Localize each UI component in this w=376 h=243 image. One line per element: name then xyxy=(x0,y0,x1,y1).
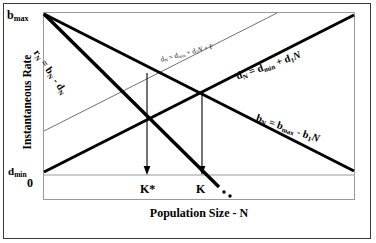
rn-growth-rate-line xyxy=(44,14,219,187)
k-marker-label: K xyxy=(196,182,205,197)
y-axis-title: Instantaneous Rate xyxy=(21,27,33,177)
y-tick-bmax-base: b xyxy=(7,8,14,22)
y-tick-bmax-sub: max xyxy=(14,14,29,23)
rn-dot-2 xyxy=(228,194,231,197)
y-tick-zero: 0 xyxy=(27,177,33,189)
k-star-marker-label: K* xyxy=(140,182,155,197)
rn-dot-1 xyxy=(222,190,225,193)
x-axis-title: Population Size - N xyxy=(43,206,355,221)
y-tick-zero-base: 0 xyxy=(27,176,33,190)
k-star-arrow-head xyxy=(144,166,151,175)
figure-container: bmax dmin 0 Instantaneous Rate Populatio… xyxy=(0,0,376,243)
y-tick-bmax: bmax xyxy=(7,9,29,21)
dnf-eq-sub1: N xyxy=(164,57,168,63)
